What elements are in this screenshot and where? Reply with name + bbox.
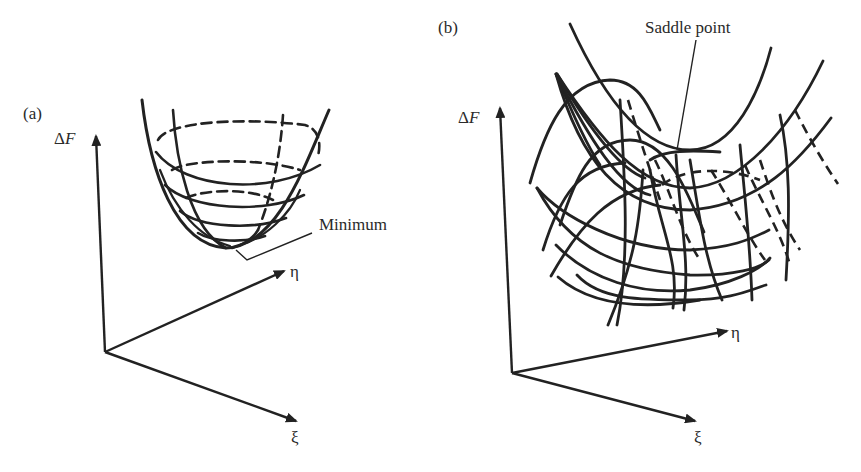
panel-b-xi-label: ξ (694, 428, 702, 448)
free-energy-symbol: F (469, 108, 479, 127)
panel-b-xi-axis (512, 373, 695, 421)
panel-a-deltaF-axis (96, 136, 105, 352)
minimum-annotation: Minimum (319, 215, 387, 235)
panel-a-eta-axis (105, 271, 284, 352)
panel-a-label: (a) (23, 104, 42, 124)
delta-symbol: Δ (458, 108, 469, 127)
free-energy-symbol: F (65, 129, 75, 148)
saddle-point-leader-line (677, 40, 696, 150)
free-energy-surfaces-figure (0, 0, 861, 472)
panel-a-bowl-surface (142, 100, 329, 248)
panel-a-deltaF-label: ΔF (54, 129, 75, 149)
delta-symbol: Δ (54, 129, 65, 148)
panel-b-deltaF-axis (500, 108, 512, 373)
panel-b-deltaF-label: ΔF (458, 108, 479, 128)
saddle-point-annotation: Saddle point (645, 18, 730, 38)
panel-a-xi-label: ξ (291, 428, 299, 448)
panel-a-xi-axis (105, 352, 296, 421)
minimum-leader-line (236, 233, 312, 260)
panel-a-eta-label: η (290, 262, 299, 282)
panel-b-eta-axis (512, 331, 727, 373)
panel-b-eta-label: η (731, 323, 740, 343)
panel-b-label: (b) (438, 18, 458, 38)
